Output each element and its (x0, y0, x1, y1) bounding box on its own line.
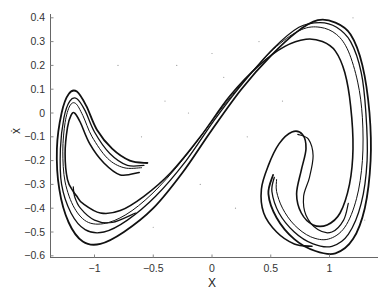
y-axis-label: ẋ (9, 128, 23, 134)
y-tick-label: 0.2 (30, 59, 45, 71)
curve-outer-band (57, 20, 371, 255)
y-tick-label: 0.4 (30, 11, 45, 23)
y-tick-label: 0.3 (30, 35, 45, 47)
x-tick-label: −0.5 (143, 262, 164, 274)
x-tick-label: −1 (89, 262, 101, 274)
noise-dot (200, 184, 201, 185)
curve-left-hook-inner (73, 187, 135, 223)
noise-dot (282, 101, 283, 102)
y-tick-label: 0 (39, 107, 45, 119)
x-tick-label: 1 (327, 262, 333, 274)
y-tick-label: −0.3 (24, 178, 45, 190)
noise-dot (164, 101, 165, 102)
noise-dot (141, 136, 142, 137)
x-tick-label: 0 (209, 262, 215, 274)
noise-dot (211, 53, 212, 54)
scatter-noise (117, 17, 365, 228)
y-ticks: 0.40.30.20.10−0.1−0.2−0.3−0.4−0.5−0.6 (24, 11, 53, 261)
y-tick-label: −0.1 (24, 130, 45, 142)
noise-dot (117, 65, 118, 66)
noise-dot (364, 220, 365, 221)
attractor-chart: −1−0.500.51 0.40.30.20.10−0.1−0.2−0.3−0.… (0, 0, 387, 294)
x-axis-label: X (208, 276, 216, 290)
y-tick-label: 0.1 (30, 83, 45, 95)
y-tick-label: −0.5 (24, 226, 45, 238)
noise-dot (188, 112, 189, 113)
y-tick-label: −0.4 (24, 202, 45, 214)
noise-dot (223, 77, 224, 78)
attractor-curves (57, 20, 371, 255)
noise-dot (258, 41, 259, 42)
x-tick-label: 0.5 (263, 262, 278, 274)
y-tick-label: −0.6 (24, 249, 45, 261)
noise-dot (247, 136, 248, 137)
curve-band-3 (63, 27, 363, 240)
noise-dot (153, 227, 154, 228)
noise-dot (352, 17, 353, 18)
y-tick-label: −0.2 (24, 154, 45, 166)
noise-dot (235, 208, 236, 209)
noise-dot (176, 65, 177, 66)
